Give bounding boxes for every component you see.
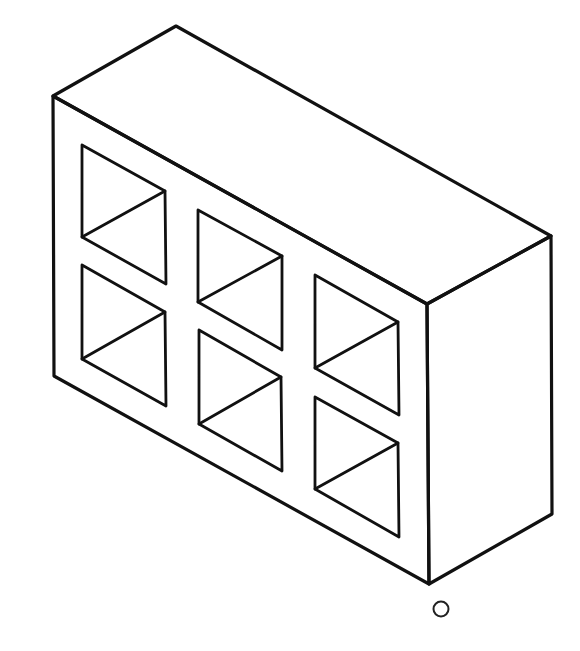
origin-marker-icon: [434, 602, 449, 617]
hole-1: [82, 145, 166, 284]
hole-inner-edge: [315, 443, 398, 489]
block-right-face: [427, 236, 552, 584]
hole-2: [198, 210, 282, 350]
hole-3: [315, 275, 399, 415]
block-front-face: [53, 96, 429, 584]
hole-inner-edge: [82, 191, 165, 237]
hole-5: [199, 330, 282, 471]
hole-4: [82, 265, 166, 406]
hole-inner-edge: [315, 322, 398, 368]
hole-inner-edge: [82, 312, 165, 359]
hole-6: [315, 397, 399, 537]
block-diagram: [0, 0, 580, 651]
hole-inner-edge: [199, 377, 281, 424]
block-outline: [53, 26, 552, 584]
hole-inner-edge: [198, 256, 282, 302]
